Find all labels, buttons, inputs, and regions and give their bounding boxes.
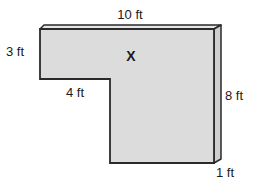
label-top-length: 10 ft: [117, 7, 143, 22]
region-marker-x: X: [126, 48, 136, 64]
label-right-height: 8 ft: [225, 88, 243, 103]
label-inner-step: 4 ft: [66, 85, 84, 100]
label-depth: 1 ft: [216, 165, 234, 180]
l-shape-diagram: 10 ft 3 ft 4 ft 8 ft 1 ft X: [0, 0, 265, 190]
label-left-height: 3 ft: [6, 44, 24, 59]
side-depth-face: [214, 25, 221, 163]
